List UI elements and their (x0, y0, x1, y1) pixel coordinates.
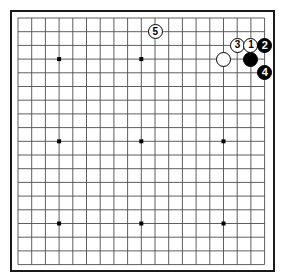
stone-move-number: 3 (235, 40, 240, 50)
stone-move-number: 1 (248, 40, 253, 50)
go-board-diagram: 31245 (0, 0, 285, 280)
stone-move-number: 4 (262, 67, 268, 78)
stone-white-plain[interactable] (216, 52, 231, 67)
stone-move-number: 2 (262, 40, 268, 51)
stone-move-number: 5 (152, 27, 157, 37)
stone-move-5[interactable]: 5 (148, 24, 163, 39)
stone-move-2[interactable]: 2 (257, 38, 272, 53)
stone-black-plain[interactable] (243, 52, 258, 67)
